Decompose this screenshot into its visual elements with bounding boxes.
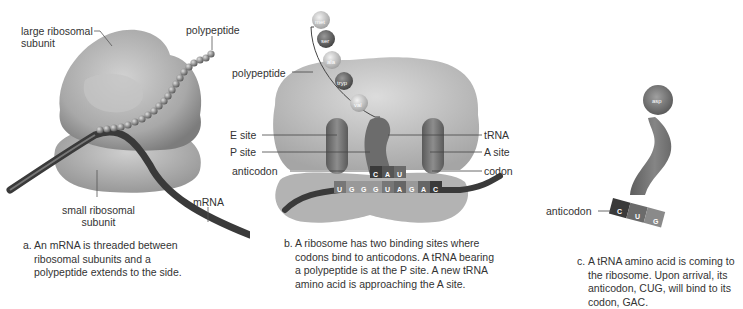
caption-text: A tRNA amino acid is coming to the ribos… bbox=[577, 255, 737, 309]
mrna-base: U bbox=[385, 184, 390, 196]
mrna-base: G bbox=[409, 184, 414, 196]
caption-text: An mRNA is threaded between ribosomal su… bbox=[23, 239, 193, 280]
caption-text: A ribosome has two binding sites where c… bbox=[284, 237, 499, 291]
anticodon-base: C bbox=[373, 169, 378, 181]
label-e-site: E site bbox=[230, 129, 256, 141]
caption-prefix: a. bbox=[23, 239, 32, 253]
mrna-base: A bbox=[397, 184, 402, 196]
label-line: subunit bbox=[62, 216, 135, 228]
mrna-base: G bbox=[361, 184, 366, 196]
label-large-ribosomal-subunit: large ribosomal subunit bbox=[21, 25, 93, 49]
label-codon: codon bbox=[484, 165, 513, 177]
anticodon-base: C bbox=[617, 206, 622, 218]
caption-b: b. A ribosome has two binding sites wher… bbox=[284, 237, 499, 291]
label-polypeptide: polypeptide bbox=[232, 67, 286, 79]
trna-illustration bbox=[520, 0, 743, 297]
caption-c: c. A tRNA amino acid is coming to the ri… bbox=[577, 255, 737, 309]
anticodon-base: U bbox=[635, 211, 640, 223]
amino-acid-met: met bbox=[315, 16, 325, 28]
label-anticodon: anticodon bbox=[232, 165, 278, 177]
mrna-base: C bbox=[433, 184, 438, 196]
label-small-ribosomal-subunit: small ribosomal subunit bbox=[62, 204, 135, 228]
anticodon-base: A bbox=[385, 169, 390, 181]
panel-b-binding-sites: met ser ala tryp val C A U U G G G U A G… bbox=[220, 0, 520, 297]
caption-prefix: b. bbox=[284, 237, 293, 251]
caption-prefix: c. bbox=[577, 255, 585, 269]
label-line: large ribosomal bbox=[21, 25, 93, 37]
amino-acid-val: val bbox=[354, 99, 362, 111]
mrna-base: G bbox=[373, 184, 378, 196]
anticodon-base: U bbox=[397, 169, 402, 181]
amino-acid-ala: ala bbox=[327, 56, 335, 68]
panel-a-ribosome-overview: large ribosomal subunit polypeptide smal… bbox=[0, 0, 250, 297]
panel-c-incoming-trna: asp C U G anticodon c. A tRNA amino acid… bbox=[520, 0, 743, 297]
amino-acid-ser: ser bbox=[321, 35, 329, 47]
trna-body bbox=[630, 117, 671, 195]
label-a-site: A site bbox=[484, 146, 510, 158]
label-trna: tRNA bbox=[484, 129, 509, 141]
mrna-base: G bbox=[349, 184, 354, 196]
label-line: subunit bbox=[21, 37, 93, 49]
mrna-base: A bbox=[421, 184, 426, 196]
a-site-trna bbox=[422, 118, 444, 174]
e-site-trna bbox=[326, 118, 348, 174]
amino-acid-asp: asp bbox=[652, 95, 662, 107]
label-anticodon: anticodon bbox=[546, 205, 592, 217]
caption-a: a. An mRNA is threaded between ribosomal… bbox=[23, 239, 193, 280]
label-p-site: P site bbox=[230, 146, 256, 158]
mrna-base: U bbox=[337, 184, 342, 196]
amino-acid-tryp: tryp bbox=[337, 77, 347, 89]
label-line: small ribosomal bbox=[62, 204, 135, 216]
anticodon-base: G bbox=[653, 216, 658, 228]
